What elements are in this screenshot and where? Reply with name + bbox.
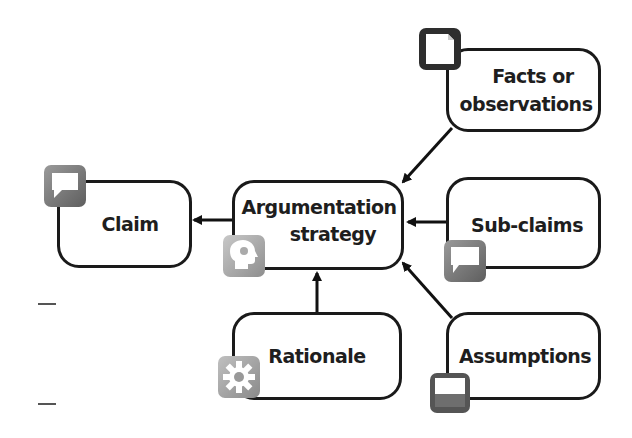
- window-icon: [430, 373, 470, 413]
- diagram-canvas: Claim Argumentation strategy Facts or ob…: [0, 0, 632, 438]
- node-argumentation-line1: Argumentation: [236, 195, 402, 219]
- speech-bubble-icon: [44, 165, 86, 207]
- margin-tick: [38, 303, 56, 305]
- node-facts-line1: Facts or: [474, 64, 592, 88]
- speech-bubble-icon: [444, 240, 486, 282]
- node-assumptions-label: Assumptions: [450, 344, 600, 368]
- margin-tick: [38, 403, 56, 405]
- node-claim-label: Claim: [95, 212, 165, 236]
- node-sub-claims-label: Sub-claims: [462, 213, 592, 237]
- node-rationale-label: Rationale: [262, 344, 372, 368]
- document-icon: [419, 28, 461, 70]
- node-facts-observations[interactable]: [446, 48, 601, 132]
- gear-icon: [218, 356, 260, 398]
- node-facts-line2: observations: [456, 92, 596, 116]
- node-argumentation-line2: strategy: [250, 222, 416, 246]
- arrow-facts-to-argumentation: [403, 128, 452, 182]
